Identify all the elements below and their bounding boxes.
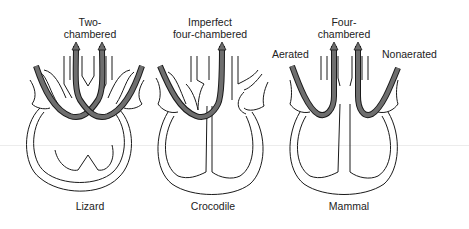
- crocodile-caption: Crocodile: [178, 200, 248, 212]
- lizard-type-line2: chambered: [60, 28, 120, 40]
- crocodile-flow-tube: [160, 42, 226, 117]
- lizard-heart: [27, 56, 145, 191]
- crocodile-type-line1: Imperfect: [160, 16, 260, 28]
- lizard-caption: Lizard: [60, 200, 120, 212]
- lizard-type-label: Two- chambered: [60, 16, 120, 40]
- lizard-flow-tubes: [36, 42, 142, 117]
- lizard-type-line1: Two-: [60, 16, 120, 28]
- crocodile-type-line2: four-chambered: [160, 28, 260, 40]
- mammal-type-line2: chambered: [314, 28, 374, 40]
- crocodile-heart: [156, 56, 268, 195]
- mammal-type-label: Four- chambered: [314, 16, 374, 40]
- mammal-type-line1: Four-: [314, 16, 374, 28]
- aerated-label: Aerated: [272, 48, 309, 60]
- nonaerated-label: Nonaerated: [382, 48, 437, 60]
- mammal-heart: [290, 56, 398, 195]
- crocodile-type-label: Imperfect four-chambered: [160, 16, 260, 40]
- mammal-caption: Mammal: [314, 200, 384, 212]
